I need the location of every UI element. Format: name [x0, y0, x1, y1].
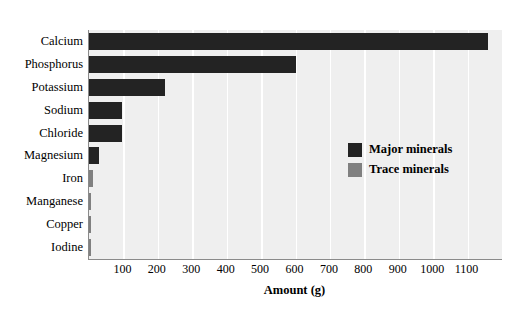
y-axis-label-manganese: Manganese	[0, 195, 83, 208]
bar-manganese	[89, 193, 91, 210]
bar-magnesium	[89, 147, 99, 164]
x-tick-1100: 1100	[455, 262, 479, 277]
bar-phosphorus	[89, 56, 296, 73]
legend-swatch-major-minerals	[348, 143, 362, 157]
bar-iron	[89, 170, 93, 187]
x-axis-tick-labels: 10020030040050060070080090010001100	[0, 262, 511, 278]
y-axis-label-iron: Iron	[0, 172, 83, 185]
y-axis-label-calcium: Calcium	[0, 35, 83, 48]
legend-item-trace-minerals: Trace minerals	[348, 162, 452, 177]
x-tick-100: 100	[113, 262, 131, 277]
gridline-1100	[468, 30, 470, 259]
x-tick-500: 500	[251, 262, 269, 277]
y-axis-category-labels: CalciumPhosphorusPotassiumSodiumChloride…	[0, 30, 83, 259]
bar-calcium	[89, 33, 488, 50]
bar-potassium	[89, 79, 165, 96]
x-tick-700: 700	[320, 262, 338, 277]
legend-item-major-minerals: Major minerals	[348, 142, 452, 157]
bar-sodium	[89, 102, 122, 119]
bar-iodine	[89, 239, 91, 256]
bar-chart: CalciumPhosphorusPotassiumSodiumChloride…	[0, 0, 511, 311]
gridline-600	[296, 30, 298, 259]
legend-label-major-minerals: Major minerals	[369, 142, 452, 157]
y-axis-label-sodium: Sodium	[0, 104, 83, 117]
x-tick-400: 400	[217, 262, 235, 277]
legend-swatch-trace-minerals	[348, 163, 362, 177]
legend: Major minerals Trace minerals	[348, 142, 452, 182]
x-tick-900: 900	[389, 262, 407, 277]
y-axis-label-copper: Copper	[0, 218, 83, 231]
y-axis-label-magnesium: Magnesium	[0, 149, 83, 162]
x-tick-600: 600	[286, 262, 304, 277]
x-tick-1000: 1000	[420, 262, 444, 277]
legend-label-trace-minerals: Trace minerals	[369, 162, 449, 177]
gridline-700	[330, 30, 332, 259]
x-tick-200: 200	[148, 262, 166, 277]
y-axis-label-chloride: Chloride	[0, 127, 83, 140]
bar-copper	[89, 216, 91, 233]
x-tick-800: 800	[354, 262, 372, 277]
y-axis-label-potassium: Potassium	[0, 81, 83, 94]
y-axis-label-iodine: Iodine	[0, 241, 83, 254]
x-axis-title: Amount (g)	[88, 283, 501, 298]
x-tick-300: 300	[182, 262, 200, 277]
bar-chloride	[89, 125, 122, 142]
y-axis-label-phosphorus: Phosphorus	[0, 58, 83, 71]
